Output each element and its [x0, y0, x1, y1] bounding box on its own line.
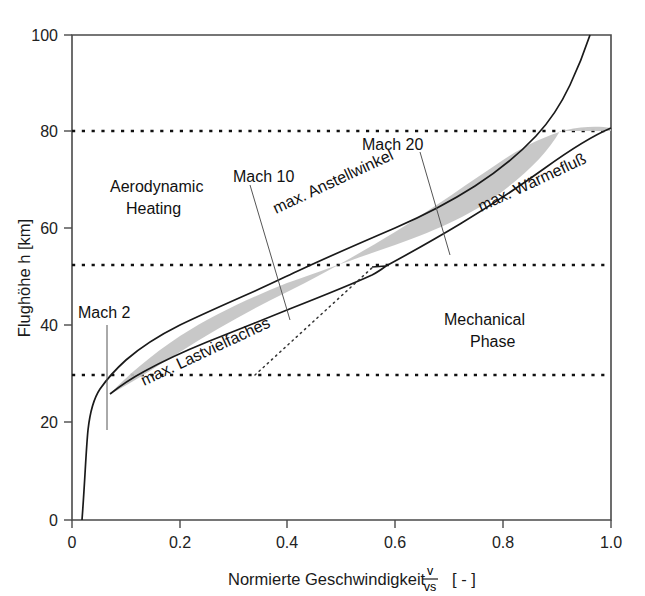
- reentry-corridor-chart: 100 80 60 40 20 0 0 0.2 0.4 0.6 0.8 1.0 …: [0, 0, 645, 596]
- annotation-heating: Heating: [126, 200, 181, 217]
- x-axis-fraction-numerator: v: [427, 564, 434, 578]
- y-tick-40: 40: [40, 317, 58, 334]
- y-tick-100: 100: [31, 27, 58, 44]
- x-tick-0.6: 0.6: [384, 534, 406, 551]
- x-axis-title-main: Normierte Geschwindigkeit: [228, 570, 426, 588]
- x-tick-1.0: 1.0: [600, 534, 622, 551]
- annotation-mach-2: Mach 2: [78, 304, 131, 321]
- annotation-aerodynamic: Aerodynamic: [110, 178, 203, 195]
- x-axis-units: [ - ]: [452, 570, 476, 588]
- y-tick-80: 80: [40, 123, 58, 140]
- chart-svg: 100 80 60 40 20 0 0 0.2 0.4 0.6 0.8 1.0 …: [0, 0, 645, 596]
- chart-background: [0, 0, 645, 596]
- annotation-mach-10: Mach 10: [233, 168, 294, 185]
- x-tick-0.8: 0.8: [492, 534, 514, 551]
- y-tick-0: 0: [49, 512, 58, 529]
- annotation-mach-20: Mach 20: [362, 136, 423, 153]
- x-tick-0.4: 0.4: [276, 534, 298, 551]
- annotation-mechanical: Mechanical: [444, 311, 525, 328]
- x-tick-0.2: 0.2: [169, 534, 191, 551]
- y-axis-title: Flughöhe h [km]: [15, 219, 33, 337]
- annotation-phase: Phase: [470, 333, 515, 350]
- y-tick-60: 60: [40, 220, 58, 237]
- y-tick-20: 20: [40, 414, 58, 431]
- x-tick-0: 0: [68, 534, 77, 551]
- x-axis-fraction-denominator: vs: [424, 580, 437, 594]
